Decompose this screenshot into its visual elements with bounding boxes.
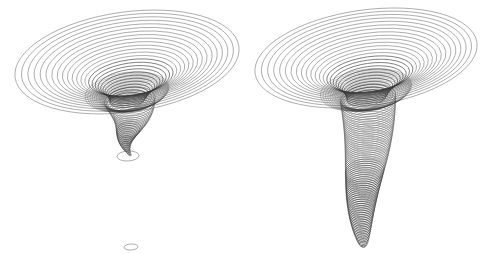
- figure-background: [0, 0, 489, 254]
- funnel-plot-figure: [0, 0, 489, 254]
